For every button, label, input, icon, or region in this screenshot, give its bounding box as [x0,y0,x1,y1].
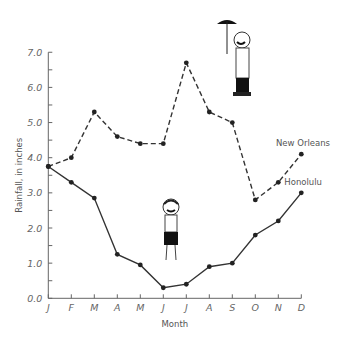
data-point [253,197,258,202]
y-tick-label: 6.0 [27,82,42,93]
data-point [138,263,143,268]
data-point [69,180,74,185]
x-tick-label: A [205,302,213,313]
data-point [184,282,189,287]
data-point [184,60,189,65]
data-point [161,141,166,146]
y-tick-label: 3.0 [27,187,42,198]
series-lines [46,60,304,290]
data-point [253,233,258,238]
data-point [207,110,212,115]
data-point [230,120,235,125]
data-point [161,285,166,290]
series-label-honolulu: Honolulu [284,177,322,187]
x-tick-label: S [229,302,235,313]
data-point [299,152,304,157]
y-tick-label: 5.0 [27,117,42,128]
data-point [207,264,212,269]
y-tick-label: 1.0 [27,258,42,269]
data-point [46,164,51,169]
y-tick-label: 4.0 [27,152,42,163]
data-point [92,196,97,201]
series-label-new-orleans: New Orleans [276,138,331,148]
data-point [276,219,281,224]
y-tick-label: 7.0 [27,47,42,58]
rainfall-chart: 0.01.02.03.04.05.06.07.0JFMAMJJASONDMont… [0,0,346,342]
data-point [92,110,97,115]
boy-icon [163,199,179,260]
data-point [115,134,120,139]
x-tick-label: O [252,302,260,313]
data-point [276,180,281,185]
x-tick-label: M [136,302,144,313]
y-tick-label: 0.0 [27,293,42,304]
data-point [115,252,120,257]
y-axis-title: Rainfall, in inches [14,137,24,212]
data-point [299,190,304,195]
umbrella-man-icon [217,20,251,96]
x-tick-label: J [45,302,50,313]
axes [48,52,301,298]
x-tick-label: F [69,302,75,313]
x-tick-label: D [298,302,305,313]
x-tick-label: N [275,302,282,313]
data-point [69,155,74,160]
data-point [230,261,235,266]
x-tick-label: A [113,302,121,313]
x-axis-title: Month [161,319,188,329]
x-tick-label: M [90,302,98,313]
series-line-new-orleans [48,63,301,200]
x-tick-label: J [183,302,188,313]
data-point [138,141,143,146]
x-tick-label: J [160,302,165,313]
y-tick-label: 2.0 [27,223,42,234]
